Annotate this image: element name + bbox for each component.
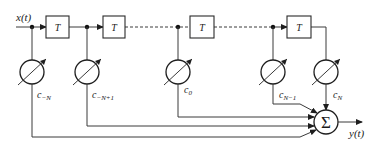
- svg-text:cN: cN: [333, 89, 342, 102]
- tap-weight-c-n-minus-1: cN−1: [259, 59, 296, 102]
- svg-text:c0: c0: [184, 84, 192, 97]
- delay-block-2: T: [103, 16, 125, 38]
- tap-label-subscript: 0: [188, 89, 192, 97]
- tap-weight-c-minus-n: c−N: [18, 59, 51, 102]
- delay-block-3: T: [190, 16, 214, 38]
- tap-weight-c-n: cN: [312, 59, 342, 102]
- tap-weight-c-minus-n-plus-1: c−N+1: [73, 59, 114, 102]
- delay-block-1: T: [46, 16, 69, 38]
- tap-label-subscript: −N+1: [96, 94, 114, 102]
- svg-text:c−N+1: c−N+1: [92, 89, 114, 102]
- delay-block-4: T: [287, 16, 311, 38]
- tapped-delay-line-diagram: x(t) T T T T c−N: [0, 0, 378, 146]
- input-label: x(t): [15, 11, 32, 24]
- tap-label-subscript: N−1: [282, 94, 296, 102]
- summing-junction: Σ: [314, 110, 338, 134]
- sigma-icon: Σ: [321, 113, 331, 132]
- wire-delay-4-to-last-tap: [311, 27, 326, 60]
- tap-label-subscript: N: [336, 94, 342, 102]
- output-label: y(t): [348, 127, 365, 140]
- svg-text:cN−1: cN−1: [279, 89, 296, 102]
- svg-text:c−N: c−N: [37, 89, 51, 102]
- tap-label-subscript: −N: [41, 94, 51, 102]
